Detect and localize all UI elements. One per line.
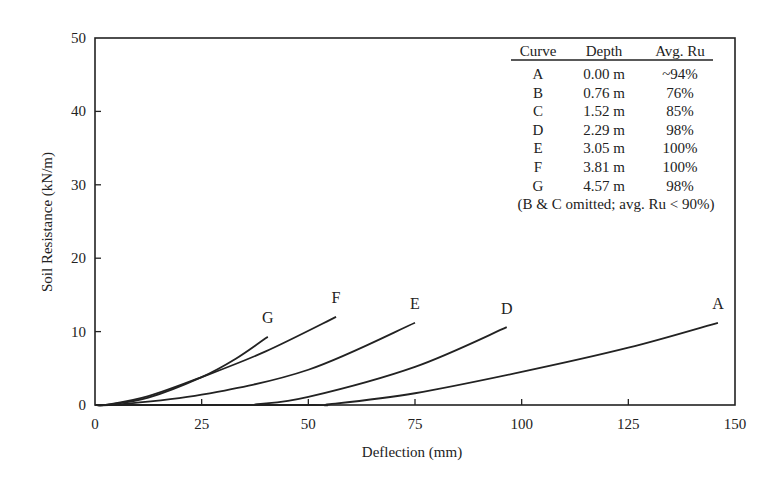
curve-label-a: A xyxy=(712,295,724,312)
y-tick-label: 0 xyxy=(79,397,87,413)
x-axis-ticks: 0255075100125150 xyxy=(91,399,746,432)
legend-cell: E xyxy=(533,140,542,156)
y-tick-label: 10 xyxy=(71,324,86,340)
y-axis-label: Soil Resistance (kN/m) xyxy=(39,152,56,292)
y-tick-label: 20 xyxy=(71,250,86,266)
x-tick-label: 100 xyxy=(510,416,533,432)
legend-cell: 1.52 m xyxy=(583,103,625,119)
curve-e xyxy=(95,323,415,406)
curve-label-e: E xyxy=(410,295,420,312)
legend-cell: 0.76 m xyxy=(583,85,625,101)
y-tick-label: 50 xyxy=(71,30,86,46)
legend-header-curve: Curve xyxy=(520,43,557,59)
curve-label-g: G xyxy=(262,309,274,326)
legend-cell: 3.81 m xyxy=(583,159,625,175)
legend-cell: 98% xyxy=(666,178,694,194)
x-tick-label: 150 xyxy=(724,416,747,432)
x-tick-label: 125 xyxy=(617,416,640,432)
legend-cell: D xyxy=(533,122,544,138)
curve-a xyxy=(95,323,718,406)
x-tick-label: 0 xyxy=(91,416,99,432)
x-tick-label: 50 xyxy=(301,416,316,432)
legend-cell: 85% xyxy=(666,103,694,119)
legend-cell: F xyxy=(534,159,542,175)
x-tick-label: 75 xyxy=(408,416,423,432)
legend-rows: A0.00 m~94%B0.76 m76%C1.52 m85%D2.29 m98… xyxy=(533,66,698,194)
plot-frame xyxy=(95,38,735,405)
x-tick-label: 25 xyxy=(194,416,209,432)
legend-cell: A xyxy=(533,66,544,82)
legend-cell: G xyxy=(533,178,544,194)
legend-cell: ~94% xyxy=(662,66,698,82)
legend-cell: B xyxy=(533,85,543,101)
legend-cell: 2.29 m xyxy=(583,122,625,138)
legend-note: (B & C omitted; avg. Ru < 90%) xyxy=(518,196,715,213)
legend-cell: 98% xyxy=(666,122,694,138)
legend-header-depth: Depth xyxy=(586,43,623,59)
y-axis-ticks: 01020304050 xyxy=(71,30,101,413)
curves xyxy=(95,317,718,406)
y-tick-label: 40 xyxy=(71,103,86,119)
legend-header-avg-ru: Avg. Ru xyxy=(655,43,705,59)
legend-cell: C xyxy=(533,103,543,119)
curve-label-f: F xyxy=(332,289,341,306)
legend-cell: 100% xyxy=(663,159,698,175)
legend-cell: 76% xyxy=(666,85,694,101)
y-tick-label: 30 xyxy=(71,177,86,193)
legend-cell: 3.05 m xyxy=(583,140,625,156)
curve-labels: ADEFG xyxy=(262,289,724,327)
soil-resistance-chart: 0255075100125150 01020304050 ADEFG Defle… xyxy=(0,0,783,482)
legend-table: Curve Depth Avg. Ru A0.00 m~94%B0.76 m76… xyxy=(511,43,714,213)
legend-cell: 4.57 m xyxy=(583,178,625,194)
curve-label-d: D xyxy=(501,300,513,317)
x-axis-label: Deflection (mm) xyxy=(362,444,462,461)
legend-cell: 0.00 m xyxy=(583,66,625,82)
curve-g xyxy=(95,337,268,406)
legend-cell: 100% xyxy=(663,140,698,156)
